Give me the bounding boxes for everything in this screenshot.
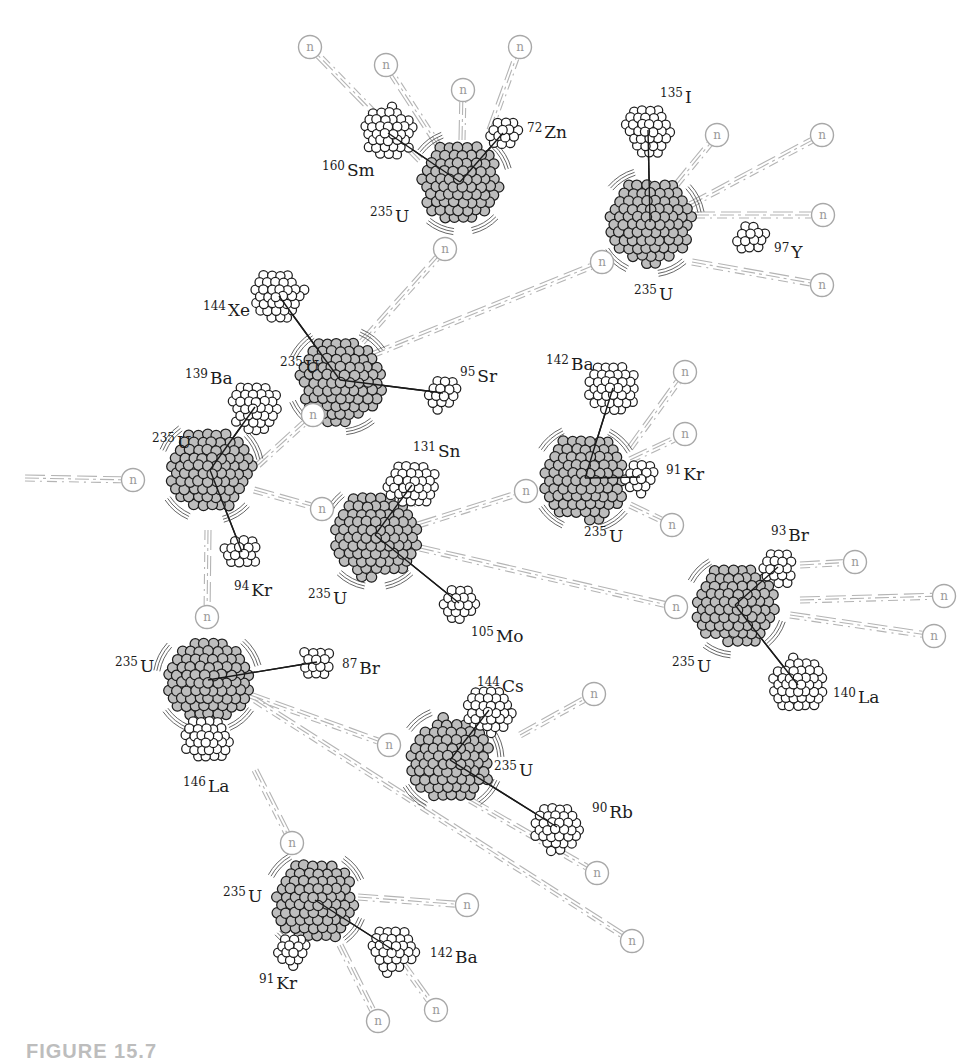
isotope-label-kr91: 91Kr — [259, 972, 298, 993]
neutron-label: n — [940, 589, 948, 603]
neutron: n — [515, 480, 538, 503]
neutron-trail — [360, 256, 439, 344]
vibration-mark-icon — [688, 559, 708, 580]
neutron-label: n — [598, 255, 606, 269]
neutron-label: n — [309, 408, 317, 422]
neutron-trail — [674, 142, 712, 187]
neutron-label: n — [590, 687, 598, 701]
neutron-label: n — [288, 836, 296, 850]
neutron-trail — [371, 264, 592, 358]
neutron-label: n — [318, 502, 326, 516]
neutron-label: n — [681, 365, 689, 379]
isotope-label-la140: 140La — [833, 686, 879, 707]
neutron-label: n — [129, 473, 137, 487]
neutron: n — [452, 79, 475, 102]
neutron-label: n — [203, 610, 211, 624]
isotope-label-ba142: 142Ba — [430, 946, 478, 967]
neutron-label: n — [851, 555, 859, 569]
isotope-label-zn72: 72Zn — [527, 121, 567, 142]
neutron-trail — [519, 697, 585, 737]
neutron-trail — [204, 530, 211, 605]
neutron-trail — [689, 138, 813, 208]
neutron: n — [586, 862, 609, 885]
fragment-sm-160 — [361, 102, 417, 159]
neutron-trail — [691, 259, 810, 286]
uranium-nucleus-u2 — [605, 180, 696, 269]
neutron: n — [844, 551, 867, 574]
fragment-sr-95 — [425, 377, 461, 415]
isotope-label-kr91: 91Kr — [666, 463, 705, 484]
neutron: n — [311, 498, 334, 521]
fragment-sn-131 — [383, 462, 439, 506]
isotope-label-u235: 235U — [223, 885, 262, 906]
neutron: n — [299, 36, 322, 59]
neutron-label: n — [374, 1014, 382, 1028]
neutron: n — [933, 585, 956, 608]
fragment-y-97 — [733, 222, 770, 253]
neutron-trail — [695, 212, 811, 218]
neutron-trail — [253, 487, 311, 509]
neutron-label: n — [385, 738, 393, 752]
neutron-label: n — [432, 1003, 440, 1017]
neutron-label: n — [306, 40, 314, 54]
neutron-trail — [249, 692, 379, 744]
isotope-label-sn131: 131Sn — [413, 440, 461, 461]
isotope-label-ba142: 142Ba — [546, 353, 594, 374]
neutron-label: n — [672, 600, 680, 614]
fission-fragments — [181, 102, 827, 977]
neutron-trail — [25, 475, 121, 483]
isotope-label-u235: 235U — [584, 525, 623, 546]
isotope-label-rb90: 90Rb — [592, 801, 633, 822]
isotope-label-u235: 235U — [494, 759, 533, 780]
neutron: n — [621, 930, 644, 953]
neutron: n — [674, 361, 697, 384]
neutron: n — [706, 124, 729, 147]
neutron-label: n — [818, 128, 826, 142]
vibration-mark-icon — [165, 500, 188, 519]
isotope-label-i135: 135I — [660, 86, 692, 107]
fragment-kr-91 — [274, 935, 310, 971]
neutron-label: n — [713, 128, 721, 142]
neutron-label: n — [522, 484, 530, 498]
neutron-label: n — [681, 427, 689, 441]
neutron: n — [367, 1010, 390, 1033]
neutrons: nnnnnnnnnnnnnnnnnnnnnnnnnnnnnn — [122, 36, 956, 1033]
isotope-label-mo105: 105Mo — [471, 625, 524, 646]
isotope-label-u235: 235U — [634, 283, 673, 304]
isotope-labels: 235U235U235U235U235U235U235U235U235U235U… — [115, 86, 879, 993]
fission-links — [208, 130, 798, 950]
neutron: n — [812, 204, 835, 227]
neutron: n — [811, 124, 834, 147]
neutron-label: n — [593, 866, 601, 880]
isotope-label-br93: 93Br — [771, 524, 810, 545]
vibration-mark-icon — [658, 261, 684, 273]
isotope-label-u235: 235U — [115, 655, 154, 676]
fragment-la-146 — [181, 717, 233, 761]
uranium-nucleus-u5 — [331, 493, 422, 582]
neutron-trail — [459, 102, 466, 140]
figure-caption: FIGURE 15.7 — [26, 1040, 157, 1058]
neutron-label: n — [818, 278, 826, 292]
neutron-label: n — [441, 242, 449, 256]
neutron-trail — [800, 560, 843, 568]
neutron: n — [591, 251, 614, 274]
neutron: n — [583, 683, 606, 706]
neutron: n — [378, 734, 401, 757]
vibration-mark-icon — [407, 710, 431, 728]
neutron: n — [661, 514, 684, 537]
isotope-label-sm160: 160Sm — [322, 159, 375, 180]
isotope-label-u235: 235U — [672, 655, 711, 676]
neutron: n — [302, 404, 325, 427]
uranium-nucleus-u8 — [164, 638, 254, 726]
isotope-label-y97: 97Y — [774, 241, 803, 262]
neutron: n — [923, 625, 946, 648]
isotope-label-sr95: 95Sr — [460, 365, 498, 386]
vibration-mark-icon — [163, 712, 187, 731]
isotope-label-u235: 235U — [308, 587, 347, 608]
fragment-br-87 — [300, 648, 334, 679]
isotope-label-br87: 87Br — [342, 657, 381, 678]
isotope-label-ba139: 139Ba — [185, 367, 233, 388]
fragment-ba-139 — [228, 383, 281, 435]
neutron-label: n — [516, 40, 524, 54]
neutron-trail — [337, 944, 375, 1012]
